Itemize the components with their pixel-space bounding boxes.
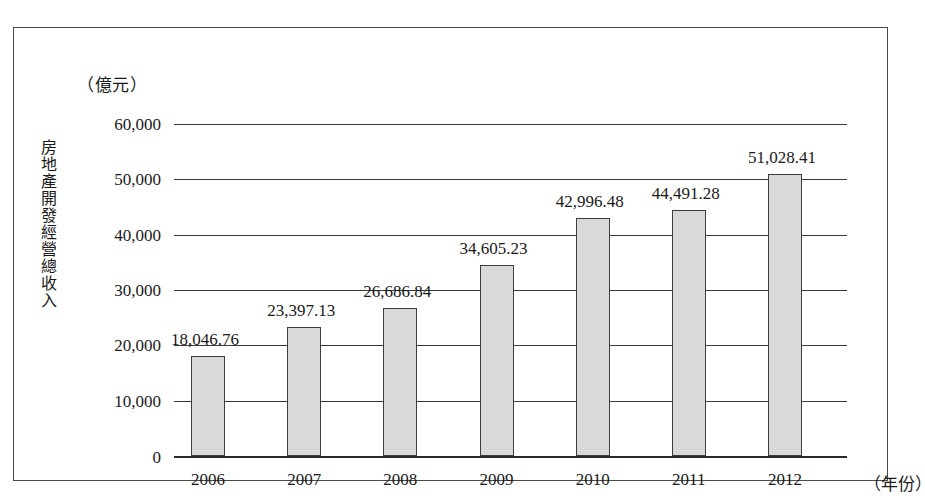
bar xyxy=(191,356,225,456)
y-axis-unit-caption: （億元） xyxy=(77,71,147,96)
bar-value-label: 34,605.23 xyxy=(460,239,528,259)
figure-frame: （億元） 房地產開發經營總收入 （年份） 010,00020,00030,000… xyxy=(13,27,888,481)
x-axis-unit-label: （年份） xyxy=(864,470,925,495)
bar-value-label: 26,686.84 xyxy=(363,282,431,302)
bar xyxy=(480,265,514,456)
bar-value-label: 42,996.48 xyxy=(556,192,624,212)
x-tick-label: 2008 xyxy=(383,470,417,490)
x-tick-label: 2010 xyxy=(576,470,610,490)
y-tick-label: 60,000 xyxy=(114,115,161,135)
gridline: 40,000 xyxy=(174,235,847,236)
y-tick-label: 0 xyxy=(153,448,162,468)
bar xyxy=(672,210,706,456)
x-tick-label: 2011 xyxy=(672,470,705,490)
gridline: 50,000 xyxy=(174,179,847,180)
y-axis-title: 房地產開發經營總收入 xyxy=(38,140,60,310)
y-tick-label: 50,000 xyxy=(114,170,161,190)
bar xyxy=(287,327,321,456)
y-tick-label: 10,000 xyxy=(114,392,161,412)
bar xyxy=(383,308,417,456)
x-tick-label: 2012 xyxy=(768,470,802,490)
bar xyxy=(576,218,610,456)
gridline: 60,000 xyxy=(174,124,847,125)
bar-value-label: 23,397.13 xyxy=(267,301,335,321)
bar-value-label: 18,046.76 xyxy=(171,330,239,350)
y-tick-label: 30,000 xyxy=(114,281,161,301)
x-axis-line: 0 xyxy=(174,456,847,458)
bar-value-label: 51,028.41 xyxy=(748,148,816,168)
y-tick-label: 40,000 xyxy=(114,226,161,246)
x-tick-label: 2009 xyxy=(480,470,514,490)
bar-value-label: 44,491.28 xyxy=(652,184,720,204)
x-tick-label: 2007 xyxy=(287,470,321,490)
bar xyxy=(768,174,802,456)
plot-area: （年份） 010,00020,00030,00040,00050,00060,0… xyxy=(174,124,847,456)
x-tick-label: 2006 xyxy=(191,470,225,490)
y-tick-label: 20,000 xyxy=(114,336,161,356)
